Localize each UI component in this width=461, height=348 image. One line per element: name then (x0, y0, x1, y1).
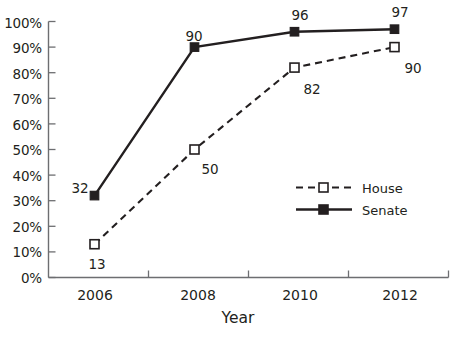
y-tick-label-50: 50% (0, 142, 42, 158)
x-tick-label-2010: 2010 (262, 287, 338, 303)
y-tick-label-10: 10% (0, 244, 42, 260)
data-label-senate-2010: 96 (283, 7, 317, 23)
y-tick-label-20: 20% (0, 219, 42, 235)
y-tick-label-80: 80% (0, 66, 42, 82)
legend-marker-senate (319, 205, 328, 214)
y-tick-label-40: 40% (0, 168, 42, 184)
data-label-house-2012: 90 (396, 60, 430, 76)
data-label-house-2008: 50 (193, 161, 227, 177)
series-line-house (95, 47, 395, 244)
legend-label-house: House (362, 181, 403, 196)
data-label-senate-2012: 97 (383, 4, 417, 20)
x-tick-label-2006: 2006 (57, 287, 133, 303)
series-markers-house (90, 43, 399, 249)
y-tick-label-90: 90% (0, 40, 42, 56)
legend-label-senate: Senate (362, 203, 408, 218)
legend-symbols (296, 183, 352, 214)
x-tick-label-2012: 2012 (362, 287, 438, 303)
legend-marker-house (319, 183, 328, 192)
data-label-senate-2008: 90 (177, 28, 211, 44)
y-tick-label-100: 100% (0, 15, 42, 31)
y-tick-label-30: 30% (0, 193, 42, 209)
y-tick-label-0: 0% (0, 270, 42, 286)
line-chart-figure: 100% 90% 80% 70% 60% 50% 40% 30% 20% 10%… (0, 0, 461, 348)
y-axis-ticks (49, 22, 56, 278)
data-label-house-2006: 13 (80, 256, 114, 272)
series-line-senate (95, 29, 395, 195)
series-markers-senate (90, 25, 399, 200)
data-label-house-2010: 82 (295, 81, 329, 97)
x-axis-ticks (149, 271, 449, 278)
data-label-senate-2006: 32 (63, 180, 97, 196)
y-tick-label-60: 60% (0, 117, 42, 133)
x-axis-title: Year (188, 309, 288, 327)
x-tick-label-2008: 2008 (160, 287, 236, 303)
y-tick-label-70: 70% (0, 91, 42, 107)
